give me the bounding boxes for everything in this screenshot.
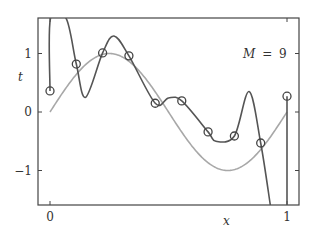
x-tick-label: 0 [46,210,54,224]
polynomial-fit-chart: 01−101 x t M = 9 [0,0,315,245]
x-axis-label: x [223,214,230,228]
x-tick-label: 1 [283,210,291,224]
y-axis-label: t [18,70,23,84]
axis-tick-labels: 01−101 [14,47,291,225]
y-tick-label: −1 [14,164,32,178]
sine-curve [50,54,287,171]
y-tick-label: 0 [24,105,32,119]
model-order-annotation: M = 9 [242,47,287,61]
y-tick-label: 1 [24,47,32,61]
